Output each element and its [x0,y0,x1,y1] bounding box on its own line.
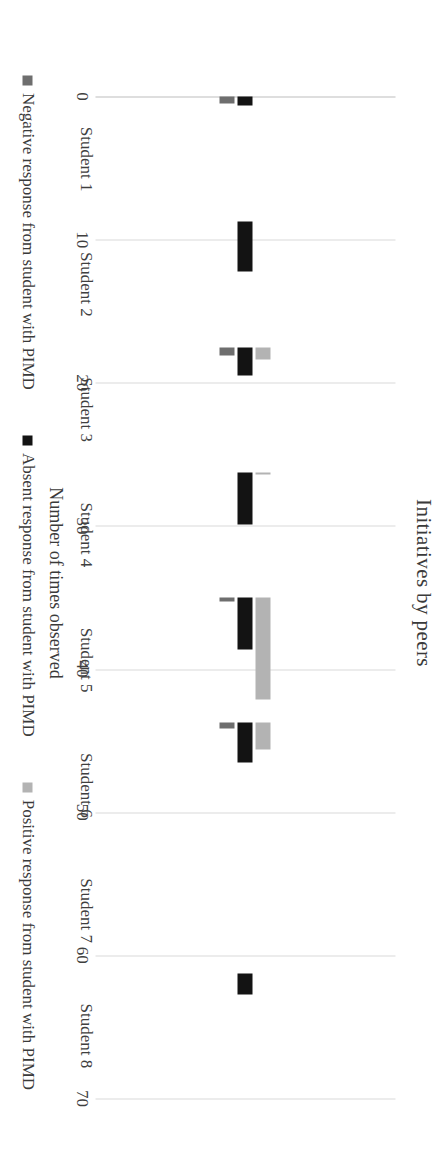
bar-row [238,597,253,722]
bar-row [256,221,271,346]
legend-item: Absent response from student with PIMD [17,435,37,736]
bar [220,96,235,103]
bar-group [95,973,395,1098]
bar-group [95,472,395,597]
bar-row [256,722,271,847]
bar [256,472,271,474]
bar [238,347,253,376]
value-tick-label: 0 [71,92,91,101]
bar-groups [95,96,395,1098]
chart-figure: Initiatives by peers Student 1Student 2S… [0,0,441,1165]
bar-row [220,848,235,973]
value-tick-label: 10 [71,231,91,248]
bar-row [220,96,235,221]
bar-row [256,848,271,973]
value-tick-label: 70 [71,1090,91,1107]
legend-swatch-icon [22,782,32,792]
bar [238,96,253,105]
value-tick-label: 20 [71,374,91,391]
chart-legend: Negative response from student with PIMD… [17,0,37,1165]
bar [238,973,253,994]
bar-row [238,722,253,847]
plot-area [95,96,395,1098]
bar [256,597,271,699]
bar-row [256,597,271,722]
bar [256,347,271,360]
legend-swatch-icon [22,435,32,445]
legend-label: Positive response from student with PIMD [17,799,37,1089]
legend-label: Absent response from student with PIMD [17,452,37,736]
bar-group [95,221,395,346]
bar-row [238,96,253,221]
bar-row [256,96,271,221]
bar-row [220,472,235,597]
bar [238,597,253,649]
bar-row [238,472,253,597]
chart-title: Initiatives by peers [410,0,435,1165]
value-tick-label: 30 [71,517,91,534]
bar-row [238,848,253,973]
bar-row [238,347,253,472]
rotated-figure-wrapper: Initiatives by peers Student 1Student 2S… [0,0,441,1165]
bar-group [95,722,395,847]
bar-row [220,722,235,847]
legend-label: Negative response from student with PIMD [17,92,37,389]
bar-row [220,221,235,346]
bar-row [220,597,235,722]
bar [256,722,271,749]
value-tick-label: 60 [71,946,91,963]
value-tick-label: 40 [71,660,91,677]
bar [238,221,253,271]
bar-row [256,472,271,597]
bar-group [95,347,395,472]
bar-group [95,597,395,722]
bar [238,722,253,761]
legend-item: Negative response from student with PIMD [17,75,37,389]
bar [220,722,235,727]
bar-row [220,347,235,472]
bar [238,472,253,524]
bar-row [220,973,235,1098]
legend-item: Positive response from student with PIMD [17,782,37,1089]
bar-row [238,973,253,1098]
bar-row [256,973,271,1098]
value-axis: 010203040506070 [61,96,95,1098]
bar [220,597,235,601]
legend-swatch-icon [22,75,32,85]
value-tick-label: 50 [71,803,91,820]
bar-group [95,848,395,973]
bar-row [238,221,253,346]
bar [220,347,235,356]
value-axis-label: Number of times observed [44,0,65,1165]
bar-group [95,96,395,221]
bar-row [256,347,271,472]
